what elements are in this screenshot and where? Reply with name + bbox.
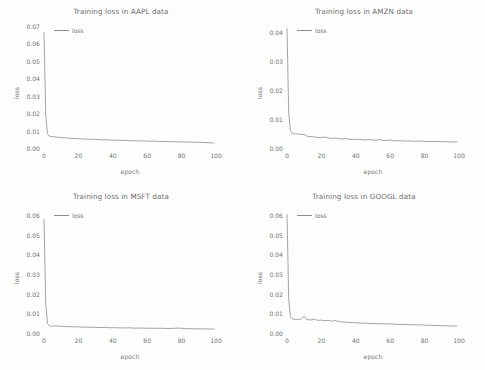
loss-curve (44, 211, 216, 333)
x-axis-tick-label: 80 (178, 152, 186, 159)
chart-panel-aapl: Training loss in AAPL data loss epoch lo… (0, 0, 242, 185)
y-axis-tick-label: 0.04 (26, 75, 40, 82)
x-axis-tick-label: 40 (109, 152, 117, 159)
y-axis-tick-label: 0.00 (269, 145, 283, 152)
loss-line (287, 214, 457, 326)
x-axis-tick-label: 60 (143, 337, 151, 344)
y-axis-tick-label: 0.05 (26, 57, 40, 64)
x-axis-tick-label: 0 (285, 152, 289, 159)
chart-panel-googl: Training loss in GOOGL data loss epoch l… (243, 185, 485, 370)
x-axis-tick-label: 20 (75, 152, 83, 159)
figure-grid: Training loss in AAPL data loss epoch lo… (0, 0, 485, 370)
x-axis-tick-label: 20 (75, 337, 83, 344)
x-axis-tick-label: 100 (453, 152, 465, 159)
y-axis-tick-label: 0.03 (26, 92, 40, 99)
x-axis-tick-label: 60 (143, 152, 151, 159)
y-axis-tick-label: 0.06 (26, 211, 40, 218)
x-axis-tick-label: 60 (386, 152, 394, 159)
x-axis-tick-label: 40 (352, 337, 360, 344)
loss-curve (44, 26, 216, 148)
x-axis-tick-label: 0 (42, 337, 46, 344)
loss-line (44, 32, 214, 143)
y-axis-tick-label: 0.02 (26, 110, 40, 117)
chart-panel-amzn: Training loss in AMZN data loss epoch lo… (243, 0, 485, 185)
x-axis-tick-label: 20 (318, 337, 326, 344)
y-axis-tick-label: 0.00 (269, 330, 283, 337)
y-axis-label: loss (13, 87, 20, 99)
loss-line (44, 219, 214, 329)
y-axis-tick-label: 0.06 (269, 211, 283, 218)
y-axis-tick-label: 0.01 (269, 310, 283, 317)
plot-area: loss 0.000.010.020.030.04020406080100 (287, 26, 459, 148)
chart-title: Training loss in AAPL data (0, 7, 242, 16)
x-axis-tick-label: 40 (109, 337, 117, 344)
x-axis-tick-label: 0 (285, 337, 289, 344)
y-axis-tick-label: 0.05 (269, 231, 283, 238)
x-axis-tick-label: 60 (386, 337, 394, 344)
y-axis-tick-label: 0.03 (26, 270, 40, 277)
x-axis-label: epoch (287, 353, 459, 360)
y-axis-tick-label: 0.04 (269, 28, 283, 35)
loss-curve (287, 211, 459, 333)
loss-curve (287, 26, 459, 148)
y-axis-tick-label: 0.00 (26, 330, 40, 337)
y-axis-label: loss (256, 87, 263, 99)
y-axis-tick-label: 0.01 (26, 127, 40, 134)
plot-area: loss 0.000.010.020.030.040.050.060204060… (287, 211, 459, 333)
chart-title: Training loss in GOOGL data (243, 192, 485, 201)
y-axis-label: loss (13, 272, 20, 284)
y-axis-tick-label: 0.07 (26, 23, 40, 30)
y-axis-tick-label: 0.05 (26, 231, 40, 238)
y-axis-tick-label: 0.03 (269, 57, 283, 64)
x-axis-tick-label: 80 (421, 152, 429, 159)
y-axis-tick-label: 0.03 (269, 270, 283, 277)
y-axis-tick-label: 0.02 (269, 86, 283, 93)
loss-line (287, 28, 457, 142)
x-axis-tick-label: 40 (352, 152, 360, 159)
x-axis-tick-label: 100 (210, 337, 222, 344)
x-axis-label: epoch (44, 168, 216, 175)
y-axis-tick-label: 0.02 (26, 290, 40, 297)
y-axis-tick-label: 0.06 (26, 40, 40, 47)
x-axis-tick-label: 20 (318, 152, 326, 159)
y-axis-tick-label: 0.01 (26, 310, 40, 317)
x-axis-label: epoch (44, 353, 216, 360)
x-axis-tick-label: 80 (421, 337, 429, 344)
y-axis-tick-label: 0.01 (269, 115, 283, 122)
y-axis-tick-label: 0.02 (269, 290, 283, 297)
y-axis-tick-label: 0.04 (26, 251, 40, 258)
chart-title: Training loss in MSFT data (0, 192, 242, 201)
chart-title: Training loss in AMZN data (243, 7, 485, 16)
x-axis-tick-label: 0 (42, 152, 46, 159)
x-axis-tick-label: 80 (178, 337, 186, 344)
x-axis-label: epoch (287, 168, 459, 175)
y-axis-tick-label: 0.04 (269, 251, 283, 258)
y-axis-tick-label: 0.00 (26, 145, 40, 152)
x-axis-tick-label: 100 (210, 152, 222, 159)
chart-panel-msft: Training loss in MSFT data loss epoch lo… (0, 185, 242, 370)
x-axis-tick-label: 100 (453, 337, 465, 344)
plot-area: loss 0.000.010.020.030.040.050.060.07020… (44, 26, 216, 148)
plot-area: loss 0.000.010.020.030.040.050.060204060… (44, 211, 216, 333)
y-axis-label: loss (256, 272, 263, 284)
